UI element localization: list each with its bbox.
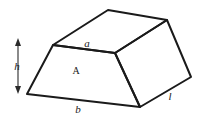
height-arrow-head-up [15,38,21,46]
label-length-l: l [168,91,171,102]
height-arrow-head-down [15,86,21,94]
figure-container: a b h l A [0,0,204,120]
label-top-edge-a: a [84,38,90,49]
trapezoidal-prism-drawing [0,0,204,120]
label-bottom-edge-b: b [75,104,81,115]
label-face-area-A: A [72,66,79,76]
label-height-h: h [14,61,20,72]
